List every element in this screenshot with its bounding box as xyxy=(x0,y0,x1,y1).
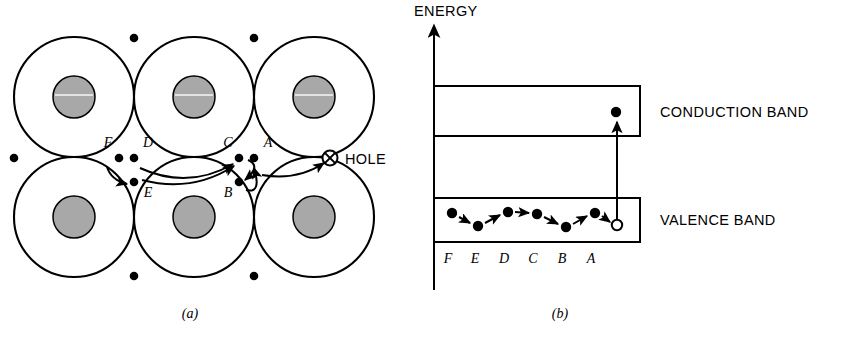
electron-dot xyxy=(250,34,259,43)
valence-electron-A xyxy=(590,208,600,218)
nucleus xyxy=(53,76,95,118)
electron-dot xyxy=(250,272,259,281)
nucleus xyxy=(53,196,95,238)
panel-a-caption: (a) xyxy=(182,306,199,322)
figure-root: F D C A E B HOLE (a) ENERGY CONDUCTION B… xyxy=(0,0,842,342)
hole-symbol xyxy=(323,151,338,166)
electron-dot xyxy=(130,272,139,281)
site-label-B: B xyxy=(224,185,233,200)
band-site-label-D: D xyxy=(498,251,509,266)
conduction-band-box xyxy=(434,86,640,136)
site-label-D: D xyxy=(142,135,153,150)
valence-electron-E xyxy=(473,221,483,231)
conduction-electron xyxy=(611,107,621,117)
electron-dot xyxy=(130,34,139,43)
band-site-label-C: C xyxy=(528,251,538,266)
semiconductor-hole-diagram: F D C A E B HOLE (a) ENERGY CONDUCTION B… xyxy=(0,0,842,342)
nucleus xyxy=(293,196,335,238)
site-label-E: E xyxy=(143,185,153,200)
electron-dot xyxy=(235,154,244,163)
hole-label: HOLE xyxy=(345,151,386,167)
panel-b-site-labels: F E D C B A xyxy=(443,251,596,266)
energy-axis: ENERGY xyxy=(414,3,478,290)
electron-dot xyxy=(10,154,19,163)
nucleus xyxy=(173,76,215,118)
hop-arrow-B-to-A xyxy=(246,168,257,191)
electron-dot xyxy=(130,178,139,187)
electron-dot xyxy=(130,154,139,163)
site-label-F: F xyxy=(103,135,113,150)
hop-arrow-C-to-B xyxy=(245,160,254,180)
valence-electron-C xyxy=(532,209,542,219)
site-label-A: A xyxy=(263,135,273,150)
valence-hole xyxy=(612,220,622,230)
electron-dot xyxy=(115,154,124,163)
electron-dot xyxy=(235,178,244,187)
panel-b: ENERGY CONDUCTION BAND VALENCE BAND xyxy=(414,3,809,322)
panel-b-caption: (b) xyxy=(552,306,569,322)
atom-lattice xyxy=(14,37,374,277)
valence-electron-B xyxy=(561,222,571,232)
valence-hop-D-C xyxy=(515,212,529,213)
valence-band-label: VALENCE BAND xyxy=(660,212,776,228)
valence-electron-D xyxy=(503,207,513,217)
band-site-label-F: F xyxy=(443,251,453,266)
valence-electron-F xyxy=(447,208,457,218)
band-site-label-E: E xyxy=(470,251,480,266)
nucleus xyxy=(293,76,335,118)
band-site-label-B: B xyxy=(558,251,567,266)
energy-axis-label: ENERGY xyxy=(414,3,478,19)
band-site-label-A: A xyxy=(586,251,596,266)
nucleus xyxy=(173,196,215,238)
conduction-band-label: CONDUCTION BAND xyxy=(660,104,809,120)
panel-a: F D C A E B HOLE (a) xyxy=(10,34,386,322)
site-label-C: C xyxy=(223,135,233,150)
